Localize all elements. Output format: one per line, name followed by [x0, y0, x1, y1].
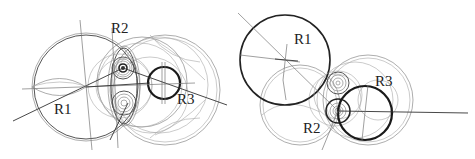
- right-label-r2: R2: [303, 120, 321, 136]
- left-construction-lines: [13, 20, 227, 150]
- right-construction-circles: [260, 55, 413, 145]
- right-label-r3: R3: [375, 73, 393, 89]
- gear-linkage-diagrams: R2 R1 R3: [0, 0, 475, 159]
- diagram-canvas: R2 R1 R3: [0, 0, 475, 159]
- right-r3-circle: [322, 85, 468, 150]
- left-diagram: R2 R1 R3: [13, 20, 227, 150]
- right-diagram: R1 R3 R2: [238, 13, 468, 150]
- right-label-r1: R1: [294, 31, 312, 47]
- left-label-r3: R3: [177, 91, 195, 107]
- left-label-r1: R1: [54, 101, 72, 117]
- right-r1-circle: [238, 13, 335, 108]
- left-label-r2: R2: [111, 20, 129, 36]
